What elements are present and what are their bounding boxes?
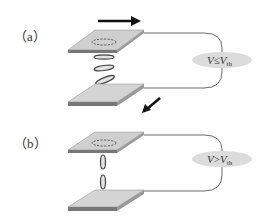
panel-b: V>Vth xyxy=(68,132,252,211)
arrow-down-left-icon xyxy=(142,98,160,113)
panel-a: V≤Vth xyxy=(68,16,252,113)
bottom-plate-b xyxy=(68,190,144,211)
bottom-plate-a xyxy=(68,84,144,106)
diagram: V≤Vth V>Vth xyxy=(0,0,271,222)
condition-badge-a: V≤Vth xyxy=(192,52,252,68)
top-plate-a xyxy=(68,30,144,53)
top-plate-b xyxy=(68,132,144,153)
condition-badge-b: V>Vth xyxy=(192,151,252,167)
arrow-right-icon xyxy=(98,16,141,26)
